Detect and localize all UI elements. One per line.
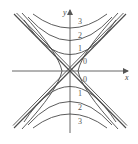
x-axis-label: x xyxy=(124,73,129,82)
level-label-upper-0: 0 xyxy=(83,57,87,66)
level-label-lower-0: 0 xyxy=(83,75,87,84)
level-label-upper-3: 3 xyxy=(78,17,82,26)
level-label-lower-3: 3 xyxy=(78,117,82,126)
level-label-upper-2: 2 xyxy=(78,31,82,40)
level-label-lower-2: 2 xyxy=(78,103,82,112)
y-axis-label: y xyxy=(62,8,67,17)
contour-map: y x 3 2 1 0 0 1 2 3 xyxy=(0,0,138,144)
level-label-lower-1: 1 xyxy=(78,89,82,98)
level-label-upper-1: 1 xyxy=(78,44,82,53)
